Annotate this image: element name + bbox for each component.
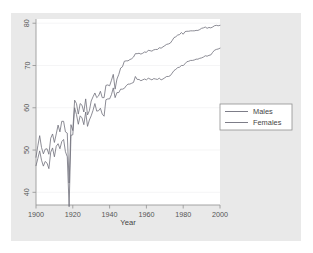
legend-label-females: Females <box>253 118 282 127</box>
y-tick-label: 70 <box>23 62 32 70</box>
x-tick-label: 1940 <box>102 210 118 219</box>
chart-figure: 4050607080 190019201940196019802000 Year… <box>0 0 313 253</box>
x-tick-label: 1900 <box>28 210 44 219</box>
y-axis-tick-labels: 4050607080 <box>23 19 32 196</box>
chart-legend[interactable]: Males Females <box>220 104 292 130</box>
y-tick-label: 50 <box>23 146 32 154</box>
y-tick-label: 60 <box>23 104 32 112</box>
y-axis-ticks <box>33 23 37 192</box>
plot-area-background <box>36 19 220 205</box>
y-tick-label: 40 <box>23 188 32 196</box>
x-tick-label: 1980 <box>175 210 191 219</box>
legend-label-males: Males <box>253 107 273 116</box>
x-tick-label: 1960 <box>138 210 154 219</box>
x-axis-ticks <box>36 205 220 209</box>
y-tick-label: 80 <box>23 19 32 27</box>
x-tick-label: 2000 <box>212 210 228 219</box>
x-tick-label: 1920 <box>65 210 81 219</box>
x-axis-title: Year <box>120 218 136 227</box>
line-chart: 4050607080 190019201940196019802000 Year… <box>0 0 313 253</box>
